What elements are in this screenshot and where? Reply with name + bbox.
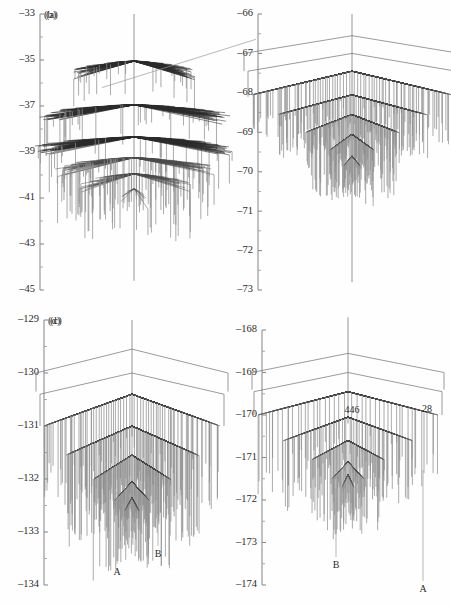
panel-d-annotation-28: 28	[422, 403, 432, 414]
panel-d-tick-label: –172	[235, 493, 257, 504]
panel-d-tick-label: –174	[235, 578, 258, 589]
panel-d-tick-label: –173	[235, 536, 257, 547]
panel-d-annotation-B: B	[333, 559, 340, 570]
panel-d-annotation-A: A	[419, 583, 427, 594]
panel-d-tag: (d)	[48, 315, 61, 327]
panel-d-plot: –168–169–170–171–172–173–174(d)44628BA	[0, 0, 451, 605]
panel-d-tick-label: –171	[235, 451, 257, 462]
panel-d-tick-label: –169	[235, 366, 257, 377]
panel-d-annotation-446: 446	[345, 404, 360, 415]
figure-canvas: –33–35–37–39–41–43–45(a)–66–67–68–69–70–…	[0, 0, 451, 605]
panel-d-tick-label: –168	[235, 323, 257, 334]
panel-d: –168–169–170–171–172–173–174(d)44628BA	[0, 0, 451, 605]
